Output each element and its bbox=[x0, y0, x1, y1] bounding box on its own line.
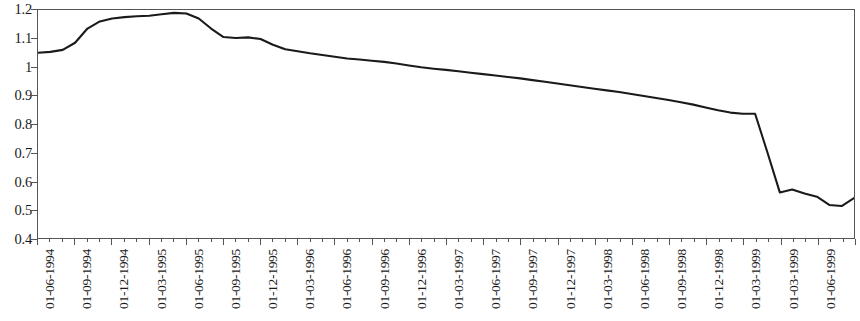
x-axis-minor-tick bbox=[124, 239, 125, 242]
x-axis-tick-label: 01-09-1998 bbox=[674, 249, 690, 309]
y-axis-tick-label: 0.4 bbox=[14, 231, 32, 248]
x-axis-tick-mark bbox=[297, 239, 298, 245]
x-axis-minor-tick bbox=[359, 239, 360, 242]
x-axis-minor-tick bbox=[434, 239, 435, 242]
x-axis-tick-mark bbox=[520, 239, 521, 245]
x-axis-ticks bbox=[37, 239, 855, 249]
x-axis-minor-tick bbox=[198, 239, 199, 242]
x-axis-minor-tick bbox=[458, 239, 459, 242]
x-axis-minor-tick bbox=[161, 239, 162, 242]
x-axis-tick-mark bbox=[483, 239, 484, 245]
x-axis-tick-mark bbox=[334, 239, 335, 245]
x-axis-minor-tick bbox=[248, 239, 249, 242]
x-axis-tick-label: 01-03-1995 bbox=[154, 249, 170, 309]
x-axis-tick-mark bbox=[223, 239, 224, 245]
y-axis-tick-label: 0.8 bbox=[14, 116, 32, 133]
x-axis-tick-label: 01-09-1997 bbox=[525, 249, 541, 309]
x-axis-minor-tick bbox=[607, 239, 608, 242]
y-axis-tick-mark bbox=[31, 153, 37, 154]
y-axis-tick-mark bbox=[31, 210, 37, 211]
x-axis-tick-mark bbox=[260, 239, 261, 245]
y-axis-tick-label: 1.1 bbox=[14, 29, 32, 46]
x-axis-tick-mark bbox=[111, 239, 112, 245]
x-axis-minor-tick bbox=[471, 239, 472, 242]
y-axis-tick-label: 0.9 bbox=[14, 87, 32, 104]
x-axis-tick-label: 01-09-1994 bbox=[79, 249, 95, 309]
x-axis-minor-tick bbox=[496, 239, 497, 242]
x-axis-tick-mark bbox=[706, 239, 707, 245]
x-axis-minor-tick bbox=[545, 239, 546, 242]
x-axis-minor-tick bbox=[62, 239, 63, 242]
y-axis-tick-label: 0.7 bbox=[14, 144, 32, 161]
x-axis-labels: 01-06-199401-09-199401-12-199401-03-1995… bbox=[37, 249, 855, 321]
x-axis-tick-mark bbox=[558, 239, 559, 245]
x-axis-minor-tick bbox=[285, 239, 286, 242]
x-axis-minor-tick bbox=[843, 239, 844, 242]
x-axis-tick-mark bbox=[595, 239, 596, 245]
x-axis-tick-label: 01-12-1997 bbox=[563, 249, 579, 309]
x-axis-tick-mark bbox=[743, 239, 744, 245]
x-axis-minor-tick bbox=[793, 239, 794, 242]
x-axis-minor-tick bbox=[235, 239, 236, 242]
x-axis-minor-tick bbox=[731, 239, 732, 242]
x-axis-tick-mark bbox=[149, 239, 150, 245]
y-axis-tick-mark bbox=[31, 124, 37, 125]
x-axis-tick-mark bbox=[855, 239, 856, 245]
x-axis-minor-tick bbox=[99, 239, 100, 242]
y-axis-tick-mark bbox=[31, 38, 37, 39]
x-axis-minor-tick bbox=[681, 239, 682, 242]
y-axis-tick-mark bbox=[31, 95, 37, 96]
x-axis-minor-tick bbox=[719, 239, 720, 242]
x-axis-tick-label: 01-06-1998 bbox=[637, 249, 653, 309]
x-axis-tick-mark bbox=[781, 239, 782, 245]
x-axis-tick-label: 01-06-1999 bbox=[823, 249, 839, 309]
x-axis-minor-tick bbox=[310, 239, 311, 242]
x-axis-tick-mark bbox=[669, 239, 670, 245]
y-axis-tick-mark bbox=[31, 9, 37, 10]
x-axis-tick-mark bbox=[632, 239, 633, 245]
x-axis-tick-label: 01-12-1998 bbox=[711, 249, 727, 309]
x-axis-tick-label: 01-03-1999 bbox=[748, 249, 764, 309]
x-axis-minor-tick bbox=[694, 239, 695, 242]
y-axis-tick-label: 1.2 bbox=[14, 1, 32, 18]
y-axis-labels: 1.21.110.90.80.70.60.50.4 bbox=[0, 0, 36, 321]
x-axis-minor-tick bbox=[768, 239, 769, 242]
x-axis-minor-tick bbox=[620, 239, 621, 242]
x-axis-tick-label: 01-12-1995 bbox=[265, 249, 281, 309]
x-axis-tick-mark bbox=[818, 239, 819, 245]
x-axis-minor-tick bbox=[272, 239, 273, 242]
x-axis-minor-tick bbox=[322, 239, 323, 242]
x-axis-tick-label: 01-12-1996 bbox=[414, 249, 430, 309]
y-axis-tick-label: 0.6 bbox=[14, 173, 32, 190]
plot-area bbox=[37, 9, 855, 239]
series-svg bbox=[38, 10, 854, 238]
x-axis-minor-tick bbox=[657, 239, 658, 242]
y-axis-tick-label: 0.5 bbox=[14, 202, 32, 219]
x-axis-tick-mark bbox=[74, 239, 75, 245]
x-axis-minor-tick bbox=[396, 239, 397, 242]
x-axis-minor-tick bbox=[756, 239, 757, 242]
x-axis-tick-mark bbox=[372, 239, 373, 245]
x-axis-tick-label: 01-12-1994 bbox=[116, 249, 132, 309]
x-axis-minor-tick bbox=[582, 239, 583, 242]
x-axis-minor-tick bbox=[508, 239, 509, 242]
x-axis-minor-tick bbox=[644, 239, 645, 242]
line-chart: 1.21.110.90.80.70.60.50.4 01-06-199401-0… bbox=[0, 0, 860, 321]
x-axis-tick-label: 01-06-1994 bbox=[42, 249, 58, 309]
x-axis-tick-mark bbox=[37, 239, 38, 245]
x-axis-minor-tick bbox=[211, 239, 212, 242]
x-axis-tick-label: 01-03-1998 bbox=[600, 249, 616, 309]
x-axis-minor-tick bbox=[87, 239, 88, 242]
x-axis-minor-tick bbox=[570, 239, 571, 242]
x-axis-minor-tick bbox=[136, 239, 137, 242]
x-axis-minor-tick bbox=[421, 239, 422, 242]
series-line bbox=[38, 13, 854, 206]
x-axis-minor-tick bbox=[830, 239, 831, 242]
x-axis-tick-label: 01-06-1997 bbox=[488, 249, 504, 309]
x-axis-tick-mark bbox=[186, 239, 187, 245]
x-axis-tick-label: 01-06-1996 bbox=[339, 249, 355, 309]
y-axis-tick-mark bbox=[31, 67, 37, 68]
x-axis-tick-label: 01-09-1996 bbox=[377, 249, 393, 309]
x-axis-tick-mark bbox=[409, 239, 410, 245]
y-axis-tick-mark bbox=[31, 239, 37, 240]
